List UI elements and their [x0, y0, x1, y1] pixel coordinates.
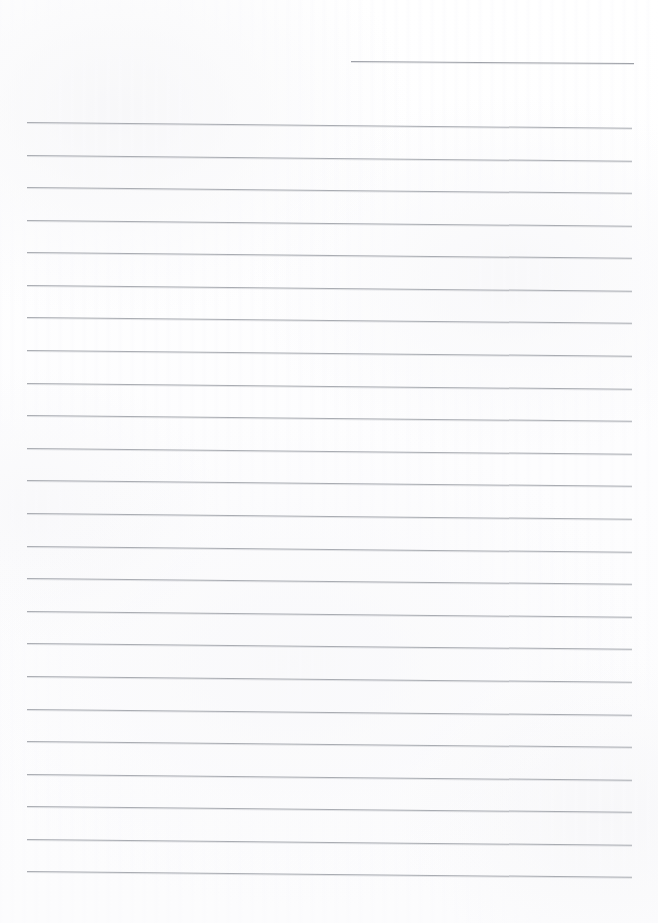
- rule-line: [27, 676, 632, 683]
- rule-line: [27, 774, 632, 781]
- rule-line: [27, 415, 632, 422]
- scanned-page: [0, 0, 658, 923]
- rule-line: [27, 220, 632, 227]
- rule-line: [27, 480, 632, 487]
- rule-line: [27, 252, 632, 259]
- rule-line: [27, 611, 632, 618]
- rule-line: [27, 578, 632, 585]
- rule-line: [27, 839, 632, 846]
- rule-line: [27, 513, 632, 520]
- rule-line: [27, 806, 632, 813]
- rule-line: [27, 350, 632, 357]
- ruled-lines-layer: [0, 0, 658, 923]
- rule-line: [27, 741, 632, 748]
- rule-line: [27, 317, 632, 324]
- rule-line: [27, 187, 632, 194]
- rule-line: [27, 122, 632, 129]
- rule-line: [27, 383, 632, 390]
- rule-line: [27, 155, 632, 162]
- rule-line: [27, 709, 632, 716]
- rule-line: [27, 643, 632, 650]
- rule-line: [27, 871, 632, 878]
- rule-line: [27, 448, 632, 455]
- rule-line-partial: [351, 61, 634, 64]
- rule-line: [27, 546, 632, 553]
- rule-line: [27, 285, 632, 292]
